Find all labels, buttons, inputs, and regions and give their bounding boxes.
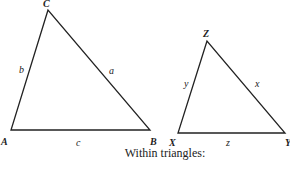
triangle-abc: C A B b a c — [0, 0, 157, 148]
side-label-b: b — [19, 64, 24, 75]
vertex-label-z: Z — [202, 28, 209, 39]
side-label-y: y — [183, 78, 189, 89]
triangle-xyz: Z X Y y x z — [168, 28, 290, 148]
vertex-label-c: C — [43, 0, 50, 9]
side-label-x: x — [254, 78, 260, 89]
triangle-abc-shape — [11, 10, 150, 130]
side-label-a: a — [109, 65, 114, 76]
triangle-xyz-shape — [178, 41, 285, 133]
caption: Within triangles: — [0, 146, 290, 161]
